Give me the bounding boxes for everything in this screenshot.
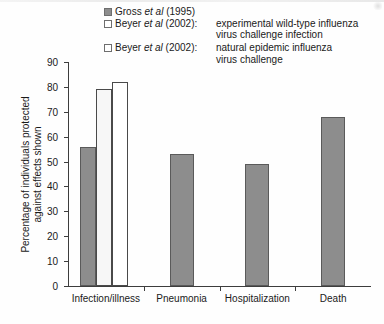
x-axis-label-1: Pneumonia bbox=[156, 293, 207, 304]
legend-cite-italic-beyer-experimental: et al bbox=[144, 18, 163, 29]
y-tick-label-90: 90 bbox=[47, 57, 58, 68]
legend-item-beyer-experimental: Beyer et al (2002): experimental wild-ty… bbox=[104, 18, 382, 30]
bar-2-0 bbox=[245, 164, 269, 286]
y-tick-label-60: 60 bbox=[47, 131, 58, 142]
bar-0-0 bbox=[80, 147, 96, 286]
legend-swatch-beyer-experimental bbox=[104, 20, 112, 28]
x-tick-1 bbox=[144, 287, 145, 291]
figure-panel: Gross et al (1995) Beyer et al (2002): e… bbox=[0, 0, 384, 324]
chart-legend: Gross et al (1995) Beyer et al (2002): e… bbox=[104, 6, 382, 65]
y-tick-90: 90 bbox=[64, 62, 68, 63]
bar-3-0 bbox=[321, 117, 345, 286]
y-axis-title-line2: against effects shown bbox=[32, 96, 44, 252]
bar-0-1 bbox=[96, 89, 112, 286]
legend-cite-pre-gross: Gross bbox=[115, 6, 144, 17]
legend-item-gross: Gross et al (1995) bbox=[104, 6, 382, 18]
legend-cite-pre-beyer-experimental: Beyer bbox=[115, 18, 144, 29]
x-tick-2 bbox=[220, 287, 221, 291]
y-tick-label-0: 0 bbox=[52, 281, 58, 292]
x-axis-label-0: Infection/illness bbox=[72, 293, 140, 304]
y-tick-label-80: 80 bbox=[47, 81, 58, 92]
y-tick-70: 70 bbox=[64, 112, 68, 113]
y-tick-label-20: 20 bbox=[47, 231, 58, 242]
y-tick-60: 60 bbox=[64, 137, 68, 138]
y-tick-0: 0 bbox=[64, 286, 68, 287]
legend-desc-beyer-natural: natural epidemic influenza bbox=[216, 42, 332, 54]
y-tick-50: 50 bbox=[64, 162, 68, 163]
x-tick-3 bbox=[295, 287, 296, 291]
y-tick-label-70: 70 bbox=[47, 106, 58, 117]
x-axis-label-3: Death bbox=[320, 293, 347, 304]
legend-cite-pre-beyer-natural: Beyer bbox=[115, 42, 144, 53]
legend-label-beyer-natural: Beyer et al (2002): natural epidemic inf… bbox=[115, 42, 332, 54]
legend-item-beyer-natural: Beyer et al (2002): natural epidemic inf… bbox=[104, 42, 382, 54]
bar-1-0 bbox=[170, 154, 194, 286]
legend-cite-post-beyer-experimental: (2002): bbox=[163, 18, 197, 29]
legend-cite-italic-beyer-natural: et al bbox=[144, 42, 163, 53]
x-axis-label-2: Hospitalization bbox=[225, 293, 290, 304]
y-axis-title-line1: Percentage of individuals protected bbox=[20, 96, 32, 252]
y-tick-30: 30 bbox=[64, 211, 68, 212]
scan-artifact-top bbox=[0, 0, 384, 2]
y-tick-20: 20 bbox=[64, 236, 68, 237]
y-tick-40: 40 bbox=[64, 186, 68, 187]
legend-cite-post-gross: (1995) bbox=[163, 6, 195, 17]
legend-desc-line2-beyer-experimental: virus challenge infection bbox=[104, 29, 382, 40]
y-axis-line bbox=[68, 62, 69, 287]
y-tick-label-50: 50 bbox=[47, 156, 58, 167]
legend-cite-beyer-experimental: Beyer et al (2002): bbox=[115, 18, 216, 30]
y-tick-10: 10 bbox=[64, 261, 68, 262]
legend-swatch-gross bbox=[104, 8, 112, 16]
legend-label-gross: Gross et al (1995) bbox=[115, 6, 195, 18]
legend-swatch-beyer-natural bbox=[104, 44, 112, 52]
y-tick-label-30: 30 bbox=[47, 206, 58, 217]
plot-area: 0102030405060708090 Infection/illnessPne… bbox=[68, 62, 371, 287]
y-tick-label-40: 40 bbox=[47, 181, 58, 192]
y-tick-80: 80 bbox=[64, 87, 68, 88]
legend-cite-italic-gross: et al bbox=[144, 6, 163, 17]
legend-label-beyer-experimental: Beyer et al (2002): experimental wild-ty… bbox=[115, 18, 358, 30]
y-axis-title: Percentage of individuals protected agai… bbox=[20, 62, 60, 287]
legend-cite-beyer-natural: Beyer et al (2002): bbox=[115, 42, 216, 54]
legend-desc-beyer-experimental: experimental wild-type influenza bbox=[216, 18, 358, 30]
legend-cite-post-beyer-natural: (2002): bbox=[163, 42, 197, 53]
y-tick-label-10: 10 bbox=[47, 256, 58, 267]
bar-0-2 bbox=[112, 82, 128, 286]
